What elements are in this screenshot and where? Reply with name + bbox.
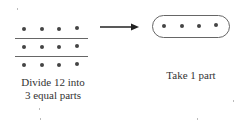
dot (180, 24, 184, 28)
scan-speck (39, 108, 40, 110)
caption-take: Take 1 part (146, 69, 236, 82)
dot (75, 62, 79, 66)
arrow-right-icon (99, 22, 141, 32)
dot (162, 24, 166, 28)
dot (22, 63, 26, 67)
scan-speck (17, 8, 18, 10)
dot (57, 45, 61, 49)
dot (214, 23, 218, 27)
divider-line-1 (15, 38, 88, 39)
dot (57, 63, 61, 67)
caption-divide: Divide 12 into 3 equal parts (8, 76, 98, 102)
dot (75, 44, 79, 48)
dot (22, 27, 26, 31)
scan-speck (40, 118, 41, 120)
caption-divide-line2: 3 equal parts (8, 89, 98, 102)
scan-speck (233, 100, 234, 102)
scan-speck (197, 118, 198, 120)
caption-divide-line1: Divide 12 into (8, 76, 98, 89)
dot (22, 45, 26, 49)
dot (40, 63, 44, 67)
dot (57, 27, 61, 31)
dot (40, 45, 44, 49)
divider-line-2 (15, 56, 88, 57)
dot (40, 27, 44, 31)
dot (75, 26, 79, 30)
dot (197, 24, 201, 28)
